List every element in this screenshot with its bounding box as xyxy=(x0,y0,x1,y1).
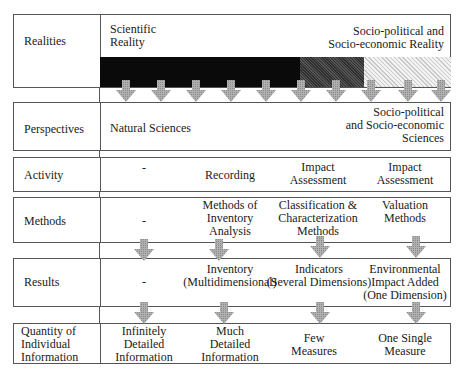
results-cell-1: - xyxy=(100,276,188,289)
activity-row: Activity - Recording Impact Assessment I… xyxy=(13,157,451,192)
scientific-reality: Scientific Reality xyxy=(110,23,156,49)
methods-label: Methods xyxy=(24,215,66,228)
quantity-cell-4: One Single Measure xyxy=(359,332,451,358)
results-cell-4: Environmental Impact Added (One Dimensio… xyxy=(359,263,451,302)
divider-gap xyxy=(99,307,100,323)
down-arrow-icon xyxy=(309,302,331,324)
down-arrow-icon xyxy=(133,239,155,261)
down-arrow-icon xyxy=(405,302,427,324)
down-arrow-icon xyxy=(185,80,207,102)
results-cell-3: Indicators (Several Dimensions) xyxy=(264,263,374,289)
methods-cell-2: Methods of Inventory Analysis xyxy=(186,199,274,238)
down-arrow-icon xyxy=(360,80,382,102)
divider-gap xyxy=(99,88,100,102)
row-divider xyxy=(100,103,101,150)
perspectives-row: Perspectives Natural Sciences Socio-poli… xyxy=(13,102,451,151)
down-arrow-icon xyxy=(325,80,347,102)
down-arrow-icon xyxy=(115,80,137,102)
down-arrow-icon xyxy=(133,302,155,324)
quantity-cell-3: Few Measures xyxy=(270,332,358,358)
down-arrow-icon xyxy=(213,302,235,324)
activity-cell-4: Impact Assessment xyxy=(359,161,451,187)
divider-gap xyxy=(99,243,100,258)
methods-cell-1: - xyxy=(100,215,188,228)
activity-cell-2: Recording xyxy=(186,169,274,182)
quantity-cell-1: Infinitely Detailed Information xyxy=(100,325,188,364)
socio-sciences: Socio-political and Socio-economic Scien… xyxy=(346,106,444,145)
results-label: Results xyxy=(24,276,59,289)
methods-cell-3: Classification & Characterization Method… xyxy=(269,199,367,238)
divider-gap xyxy=(99,192,100,197)
realities-label: Realities xyxy=(24,35,66,48)
natural-sciences: Natural Sciences xyxy=(110,122,191,135)
divider-gap xyxy=(99,151,100,157)
down-arrow-icon xyxy=(208,239,230,261)
quantity-row: Quantity of Individual Information Infin… xyxy=(13,323,451,364)
methods-row: Methods - Methods of Inventory Analysis … xyxy=(13,197,451,243)
socio-reality: Socio-political and Socio-economic Reali… xyxy=(328,25,444,51)
activity-label: Activity xyxy=(24,169,63,182)
quantity-label: Quantity of Individual Information xyxy=(21,325,78,364)
down-arrow-icon xyxy=(290,80,312,102)
activity-cell-1: - xyxy=(100,162,188,175)
perspectives-label: Perspectives xyxy=(24,123,84,136)
down-arrow-icon xyxy=(405,236,427,258)
quantity-cell-2: Much Detailed Information xyxy=(186,325,274,364)
down-arrow-icon xyxy=(309,236,331,258)
down-arrow-icon xyxy=(397,80,419,102)
activity-cell-3: Impact Assessment xyxy=(274,161,362,187)
down-arrow-icon xyxy=(430,80,452,102)
results-row: Results - Inventory (Multidimensional) I… xyxy=(13,258,451,307)
down-arrow-icon xyxy=(255,80,277,102)
down-arrow-icon xyxy=(150,80,172,102)
realities-row: Realities Scientific Reality Socio-polit… xyxy=(13,14,451,88)
methods-cell-4: Valuation Methods xyxy=(359,199,451,225)
down-arrow-icon xyxy=(220,80,242,102)
